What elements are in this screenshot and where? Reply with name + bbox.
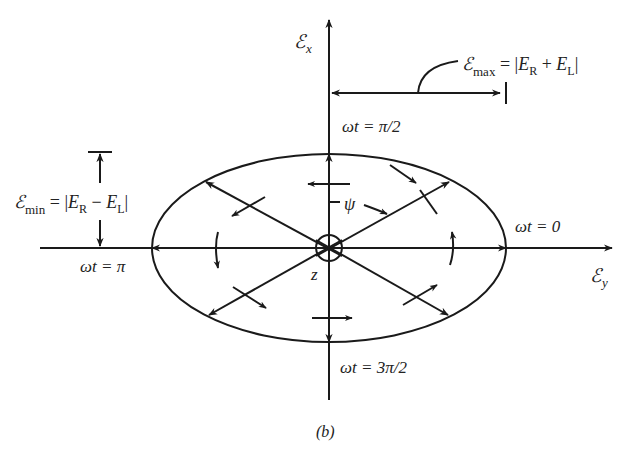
- vector-upper-left: [206, 182, 342, 256]
- phase-label-bottom: ωt = 3π/2: [340, 358, 407, 377]
- emax-leader: [418, 61, 458, 93]
- vector-upper-right: [316, 182, 449, 256]
- polarization-ellipse-diagram: ℰx ℰy z ℰmax = |ER + EL| ℰmin = |ER − EL…: [0, 0, 640, 461]
- phase-label-left: ωt = π: [80, 257, 126, 276]
- phase-label-top: ωt = π/2: [342, 117, 401, 136]
- z-axis-label: z: [310, 265, 318, 284]
- emax-label: ℰmax = |ER + EL|: [462, 54, 578, 79]
- emin-label: ℰmin = |ER − EL|: [14, 192, 128, 217]
- ey-axis-label: ℰy: [590, 265, 608, 290]
- vector-lower-right: [316, 240, 448, 315]
- psi-label: ψ: [344, 194, 356, 214]
- vector-lower-left: [209, 240, 342, 315]
- ex-axis-label: ℰx: [294, 31, 312, 56]
- figure-caption: (b): [316, 423, 335, 441]
- phase-label-right: ωt = 0: [515, 217, 561, 236]
